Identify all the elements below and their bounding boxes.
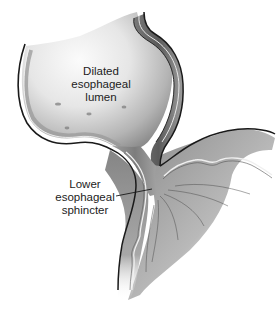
stomach-region bbox=[128, 129, 275, 300]
sphincter-label-line-3: sphincter bbox=[52, 204, 118, 217]
sphincter-label-line-2: esophageal bbox=[52, 191, 118, 204]
dilated-lumen-label-line-3: lumen bbox=[70, 91, 132, 104]
achalasia-illustration bbox=[0, 0, 280, 309]
lower-esophageal-sphincter-label: Lower esophageal sphincter bbox=[52, 178, 118, 217]
dilated-lumen-label: Dilated esophageal lumen bbox=[70, 65, 132, 104]
dilated-lumen-label-line-2: esophageal bbox=[70, 78, 132, 91]
dilated-lumen-label-line-1: Dilated bbox=[70, 65, 132, 78]
sphincter-label-line-1: Lower bbox=[52, 178, 118, 191]
